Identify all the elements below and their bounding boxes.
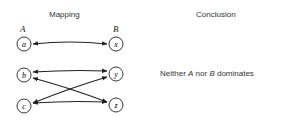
svg-text:b: b bbox=[22, 71, 26, 80]
node-y: y bbox=[109, 67, 123, 81]
node-x: x bbox=[109, 37, 123, 51]
svg-text:c: c bbox=[22, 102, 26, 111]
mapping-arrows bbox=[33, 42, 107, 103]
arrow-a-x bbox=[33, 42, 107, 44]
arrow-b-y bbox=[33, 70, 107, 72]
set-label-a: A bbox=[19, 24, 26, 34]
svg-text:x: x bbox=[113, 40, 118, 49]
conclusion-text: Neither A nor B dominates bbox=[160, 69, 254, 78]
arrow-c-z bbox=[33, 101, 107, 103]
node-b: b bbox=[17, 68, 31, 82]
node-a: a bbox=[17, 37, 31, 51]
svg-text:y: y bbox=[113, 70, 118, 79]
svg-text:a: a bbox=[22, 40, 26, 49]
mapping-diagram: A B abcxyz bbox=[0, 0, 287, 124]
set-label-b: B bbox=[113, 24, 119, 34]
node-z: z bbox=[109, 98, 123, 112]
node-c: c bbox=[17, 99, 31, 113]
